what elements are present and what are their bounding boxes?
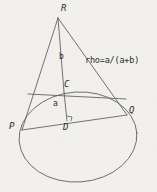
paper-texture [0,0,157,192]
label-vertex-Q: Q [129,106,134,115]
formula-rho: rho=a/(a+b) [85,56,139,65]
diagram-canvas [0,0,157,192]
geometry-figure: R P Q C D b a rho=a/(a+b) [0,0,157,192]
label-segment-b: b [59,53,64,61]
label-apex-R: R [61,4,66,13]
label-segment-a: a [53,100,58,108]
label-foot-D: D [63,123,68,132]
label-vertex-P: P [9,122,14,131]
label-center-C: C [64,80,69,89]
